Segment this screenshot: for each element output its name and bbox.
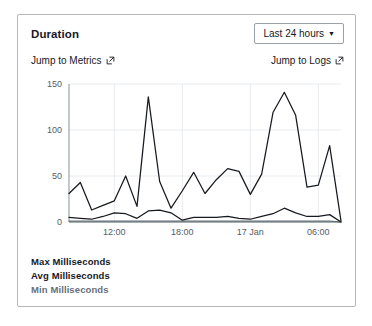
legend-item-min[interactable]: Min Milliseconds: [31, 283, 111, 296]
external-link-icon: [335, 56, 344, 65]
jump-to-logs-link[interactable]: Jump to Logs: [271, 55, 344, 66]
x-axis-tick-label: 18:00: [171, 227, 194, 237]
series-line: [69, 208, 341, 222]
y-axis-tick-label: 50: [52, 171, 62, 181]
time-range-label: Last 24 hours: [263, 28, 324, 39]
y-axis-tick-label: 0: [57, 217, 62, 227]
y-axis-tick-label: 150: [47, 79, 62, 89]
series-line: [69, 92, 341, 221]
jump-to-metrics-label: Jump to Metrics: [31, 55, 102, 66]
page-title: Duration: [31, 28, 79, 40]
widget-header: Duration Last 24 hours ▼: [18, 15, 355, 55]
legend-item-avg[interactable]: Avg Milliseconds: [31, 269, 111, 282]
widget-links: Jump to Metrics Jump to Logs: [18, 53, 355, 73]
duration-line-chart[interactable]: 05010015012:0018:0017 Jan06:00: [18, 73, 355, 253]
duration-widget-card: Duration Last 24 hours ▼ Jump to Metrics: [17, 14, 356, 307]
y-axis-tick-label: 100: [47, 125, 62, 135]
top-edge-artifact: [8, 2, 364, 6]
x-axis-tick-label: 06:00: [307, 227, 330, 237]
external-link-icon: [106, 56, 115, 65]
legend-item-max[interactable]: Max Milliseconds: [31, 255, 111, 268]
chart-canvas: 05010015012:0018:0017 Jan06:00: [18, 73, 355, 253]
chart-legend: Max Milliseconds Avg Milliseconds Min Mi…: [31, 255, 111, 296]
x-axis-tick-label: 12:00: [103, 227, 126, 237]
jump-to-metrics-link[interactable]: Jump to Metrics: [31, 55, 115, 66]
chevron-down-icon: ▼: [328, 30, 335, 37]
screenshot-root: Duration Last 24 hours ▼ Jump to Metrics: [0, 0, 372, 326]
jump-to-logs-label: Jump to Logs: [271, 55, 331, 66]
time-range-dropdown[interactable]: Last 24 hours ▼: [254, 23, 344, 44]
x-axis-tick-label: 17 Jan: [237, 227, 264, 237]
